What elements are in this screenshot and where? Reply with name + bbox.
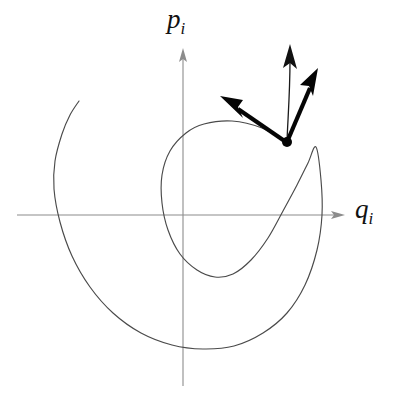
p-axis-label: pi (167, 6, 185, 33)
tangent-vector-right-shaft (287, 88, 310, 142)
state-point-marker (282, 137, 292, 147)
q-axis-label-subscript: i (369, 209, 374, 228)
phase-space-figure (0, 0, 394, 399)
tangent-vector-left (220, 96, 286, 142)
tangent-vector-right (287, 68, 318, 142)
figure-root: pi qi (0, 0, 394, 399)
q-axis-label-base: q (355, 194, 369, 224)
p-axis (179, 48, 187, 386)
curved-flow-vector-shaft (287, 60, 290, 141)
p-axis-label-base: p (167, 4, 181, 34)
tangent-vector-left-arrowhead (220, 96, 243, 118)
tangent-vector-left-shaft (238, 109, 286, 142)
p-axis-label-subscript: i (181, 19, 186, 38)
q-axis (17, 211, 345, 219)
q-axis-label: qi (355, 196, 373, 223)
